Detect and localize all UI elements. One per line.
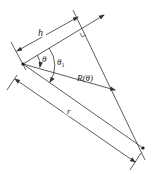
label-theta1: θ1	[57, 57, 64, 68]
label-h: h	[38, 27, 43, 38]
end-point	[141, 146, 144, 149]
label-r-theta: R(θ)	[76, 73, 93, 83]
extension-line-lower-left	[7, 75, 17, 90]
extension-line-lower-right	[130, 153, 141, 170]
label-theta: θ	[42, 54, 47, 64]
theta1-arc	[49, 48, 55, 82]
h-dimension-line	[17, 17, 78, 51]
extension-line-left	[11, 42, 26, 70]
slanted-line-right	[73, 10, 145, 160]
r-dimension-line	[15, 79, 135, 162]
origin-point	[21, 62, 24, 65]
baseline-ray	[23, 15, 104, 64]
label-r: r	[67, 106, 71, 116]
geometry-diagram: h θ θ1 R(θ) r	[0, 0, 154, 174]
theta-arc	[37, 55, 40, 67]
